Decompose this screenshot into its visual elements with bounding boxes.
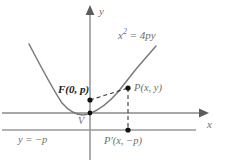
x-axis-arrowhead [199,109,209,118]
point-p-prime-marker [125,127,130,132]
equation-label: x2 = 4py [118,28,156,41]
focus-point [87,97,92,102]
point-p-marker [125,85,130,90]
point-p-label: P(x, y) [134,83,162,94]
x-axis-label: x [207,119,212,130]
x-axis [2,109,209,118]
focal-radius-dashed [90,88,128,100]
y-axis-arrowhead [86,5,95,15]
directrix-label: y = −p [18,135,47,146]
equation-rest: = 4py [127,29,156,41]
vertex-marker [88,111,93,116]
focus-label: F(0, p) [58,84,89,95]
y-axis-label: y [99,6,104,17]
parabola-curve [29,44,156,115]
point-p-prime-label: P′(x, −p) [104,136,142,147]
vertex-label: V [78,116,84,126]
parabola-diagram: x2 = 4py y x F(0, p) P(x, y) P′(x, −p) V… [0,0,231,162]
